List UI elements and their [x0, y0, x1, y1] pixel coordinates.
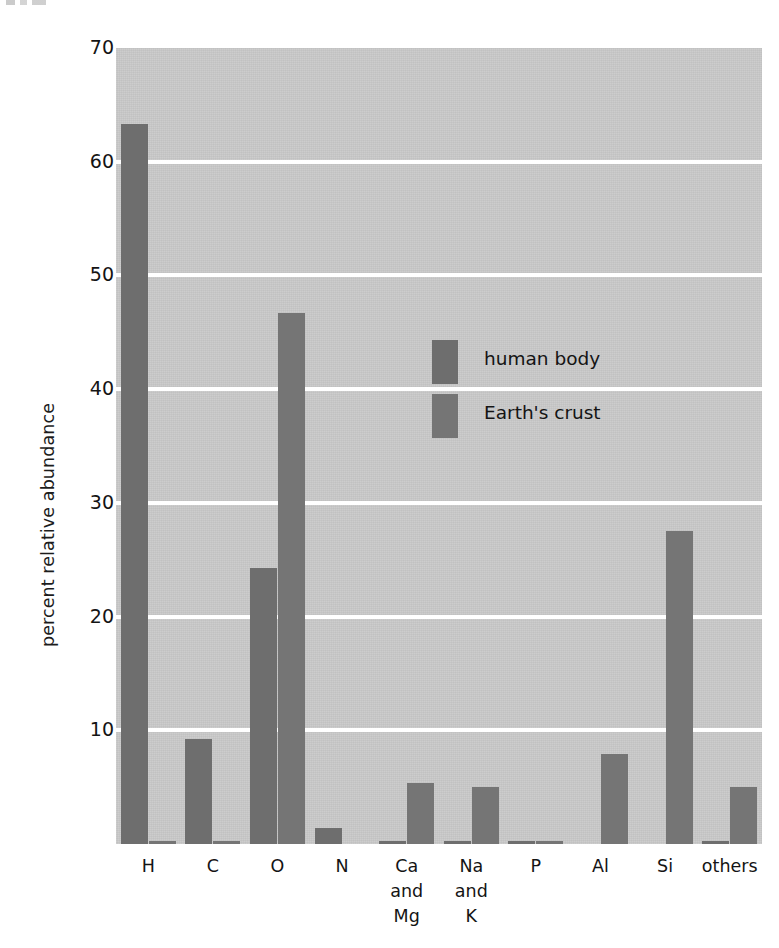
bar-group: [568, 48, 633, 844]
y-axis-tick-70: 70: [58, 38, 114, 57]
bar: [666, 531, 693, 844]
bar: [213, 841, 240, 844]
bar-group: [633, 48, 698, 844]
bar-group: [116, 48, 181, 844]
legend-swatch-human-body-icon: [432, 340, 458, 384]
bar-group: [181, 48, 246, 844]
chart-legend: human body Earth's crust: [432, 335, 692, 443]
scan-artifact-sliver: [6, 0, 66, 5]
x-axis-tick-n: N: [310, 854, 375, 879]
x-axis-tick-al: Al: [568, 854, 633, 879]
bar-group: [310, 48, 375, 844]
x-axis-tick-line: Mg: [374, 904, 439, 929]
bar-group: [504, 48, 569, 844]
x-axis-tick-c: C: [181, 854, 246, 879]
x-axis-tick-line: and: [439, 879, 504, 904]
x-axis-tick-line: C: [181, 854, 246, 879]
legend-label-earths-crust: Earth's crust: [484, 402, 601, 423]
legend-swatch-earths-crust-icon: [432, 394, 458, 438]
legend-item-earths-crust: Earth's crust: [432, 389, 692, 443]
legend-label-human-body: human body: [484, 348, 600, 369]
x-axis-tick-si: Si: [633, 854, 698, 879]
y-axis-title: percent relative abundance: [38, 375, 58, 675]
x-axis-tick-p: P: [504, 854, 569, 879]
bar: [536, 841, 563, 844]
bar: [315, 828, 342, 844]
x-axis-tick-line: H: [116, 854, 181, 879]
abundance-bar-chart: percent relative abundance 7060504030201…: [0, 0, 779, 948]
bar: [121, 124, 148, 844]
bar: [379, 841, 406, 844]
x-axis-tick-line: O: [245, 854, 310, 879]
x-axis-tick-na: NaandK: [439, 854, 504, 929]
bar-group: [374, 48, 439, 844]
y-axis-tick-30: 30: [58, 493, 114, 512]
x-axis-tick-line: others: [697, 854, 762, 879]
x-axis-tick-line: Si: [633, 854, 698, 879]
y-axis-tick-20: 20: [58, 607, 114, 626]
bar: [250, 568, 277, 844]
x-axis-tick-line: N: [310, 854, 375, 879]
y-axis-tick-labels: 70605040302010: [58, 0, 114, 948]
bar: [601, 754, 628, 844]
bar-group: [697, 48, 762, 844]
bar: [702, 841, 729, 844]
y-axis-tick-10: 10: [58, 720, 114, 739]
bar-group: [245, 48, 310, 844]
x-axis-tick-line: Na: [439, 854, 504, 879]
legend-item-human-body: human body: [432, 335, 692, 389]
x-axis-tick-o: O: [245, 854, 310, 879]
bar: [472, 787, 499, 844]
bar: [149, 841, 176, 844]
bar: [407, 783, 434, 844]
y-axis-tick-60: 60: [58, 152, 114, 171]
plot-area: human body Earth's crust: [116, 48, 762, 844]
bar: [278, 313, 305, 844]
bar: [508, 841, 535, 844]
x-axis-tick-labels: HCONCaandMgNaandKPAlSiothers: [116, 854, 762, 948]
bars-layer: [116, 48, 762, 844]
bar: [185, 739, 212, 844]
y-axis-tick-40: 40: [58, 379, 114, 398]
bar-group: [439, 48, 504, 844]
bar: [444, 841, 471, 844]
x-axis-tick-h: H: [116, 854, 181, 879]
x-axis-tick-line: and: [374, 879, 439, 904]
x-axis-tick-others: others: [697, 854, 762, 879]
bar: [730, 787, 757, 844]
x-axis-tick-line: Al: [568, 854, 633, 879]
y-axis-tick-50: 50: [58, 265, 114, 284]
x-axis-tick-line: Ca: [374, 854, 439, 879]
x-axis-tick-ca: CaandMg: [374, 854, 439, 929]
x-axis-tick-line: P: [504, 854, 569, 879]
x-axis-tick-line: K: [439, 904, 504, 929]
